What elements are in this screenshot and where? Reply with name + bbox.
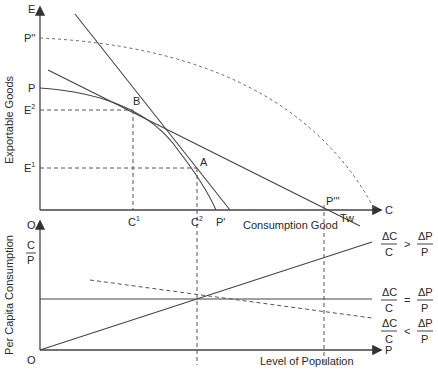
c2-label: C2	[191, 215, 203, 228]
svg-text:ΔP: ΔP	[418, 230, 433, 242]
svg-text:ΔC: ΔC	[382, 317, 397, 329]
svg-text:P: P	[421, 333, 428, 345]
p2-label: P''	[24, 32, 36, 44]
svg-text:=: =	[404, 294, 410, 306]
svg-text:>: >	[404, 238, 410, 250]
cp-num: C	[27, 239, 35, 251]
bottom-o-top-label: O	[27, 219, 36, 231]
tangent-line-a	[75, 14, 230, 210]
svg-text:<: <	[404, 325, 410, 337]
svg-text:ΔP: ΔP	[418, 317, 433, 329]
consumption-good-label: Consumption Good	[243, 219, 338, 231]
e-axis-label: E	[28, 3, 35, 15]
p-prime-label: P'	[216, 216, 225, 228]
population-consumption-diagram: Exportable Goods E C P'' P E2 E1 C1 C2 P…	[0, 0, 438, 378]
svg-text:P: P	[421, 302, 428, 314]
svg-text:C: C	[385, 246, 393, 258]
p-axis-label: P	[385, 344, 392, 356]
level-of-population-label: Level of Population	[260, 355, 354, 367]
top-panel: Exportable Goods E C P'' P E2 E1 C1 C2 P…	[3, 3, 393, 365]
point-a-label: A	[200, 156, 208, 168]
bottom-panel: Per Capita Consumption O C P O P Level o…	[3, 219, 433, 367]
svg-text:ΔC: ΔC	[382, 286, 397, 298]
condition-greater: ΔC C > ΔP P	[381, 230, 433, 258]
point-b-label: B	[133, 95, 140, 107]
exportable-goods-label: Exportable Goods	[3, 75, 15, 164]
origin-label: O	[27, 354, 36, 366]
per-capita-consumption-label: Per Capita Consumption	[3, 235, 15, 355]
e1-label: E1	[24, 161, 35, 174]
svg-text:P: P	[421, 246, 428, 258]
tangent-line-b-tw	[48, 70, 360, 226]
rising-per-capita-line	[40, 242, 372, 350]
p3-label: P'''	[326, 195, 340, 207]
svg-text:C: C	[385, 302, 393, 314]
svg-text:C: C	[385, 333, 393, 345]
outer-ppf-curve	[40, 38, 375, 210]
e2-label: E2	[24, 103, 35, 116]
svg-text:ΔC: ΔC	[382, 230, 397, 242]
tw-label: Tw	[340, 212, 354, 224]
svg-text:ΔP: ΔP	[418, 286, 433, 298]
c-axis-label: C	[385, 204, 393, 216]
ppf-curve	[40, 88, 216, 210]
condition-less: ΔC C < ΔP P	[381, 317, 433, 345]
p-label: P	[28, 82, 35, 94]
condition-equal: ΔC C = ΔP P	[381, 286, 433, 314]
c1-label: C1	[128, 215, 140, 228]
cp-den: P	[27, 254, 34, 266]
